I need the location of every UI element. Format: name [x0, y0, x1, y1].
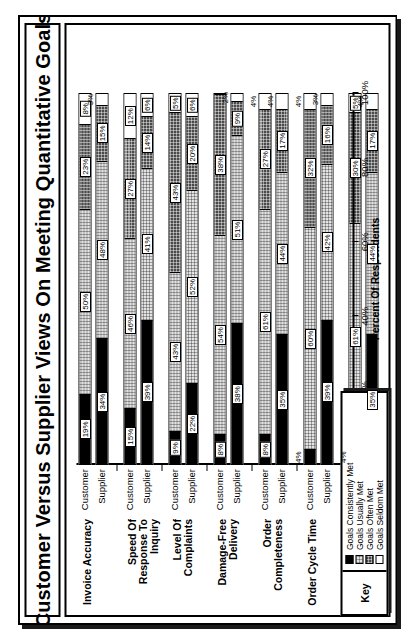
bar-segment: 42% [321, 164, 332, 319]
bar-value-label: 39% [141, 382, 152, 402]
bar-value-label: 44% [366, 244, 377, 264]
bar-segment: 61% [259, 209, 270, 435]
rotated-chart-wrapper: Customer Versus Supplier Views On Meetin… [18, 15, 397, 625]
series-label: Customer [214, 469, 224, 515]
category-label: Order Completeness [261, 519, 283, 611]
bar-segment: 6% [141, 94, 152, 116]
bar-segment: 52% [186, 190, 197, 382]
bar-value-label: 43% [169, 183, 180, 203]
bar-value-label: 4% [293, 96, 302, 108]
stacked-bar: 22%52%20%6% [185, 93, 198, 465]
group-tick [161, 464, 162, 471]
bar-value-label: 35% [366, 390, 377, 410]
bar-value-label: 48% [96, 240, 107, 260]
bar-value-label: 6% [186, 97, 197, 113]
legend-label: Goals Seldom Met [375, 480, 384, 550]
category-label: Damage-Free Delivery [216, 519, 238, 611]
bar-value-label: 8% [259, 442, 270, 458]
bar-segment: 50% [79, 209, 90, 394]
bar-value-label: 32% [304, 158, 315, 178]
stacked-bar: 39%42%16%3% [320, 93, 333, 465]
bar-segment: 9% [169, 431, 180, 464]
bar-segment: 15% [96, 105, 107, 161]
bar-value-label: 16% [321, 125, 332, 145]
stacked-bar: 9%43%43%5% [168, 93, 181, 465]
x-tick [352, 241, 358, 242]
legend-swatch [365, 555, 373, 564]
legend-row: Goals Seldom Met [374, 399, 384, 564]
category-label: Order Cycle Time [306, 519, 317, 611]
group-tick [116, 464, 117, 471]
bar-value-label: 15% [124, 427, 135, 447]
bar-value-label: 60% [304, 329, 315, 349]
bar-value-label: 23% [79, 157, 90, 177]
bar-value-label: 5% [169, 95, 180, 111]
legend-items: Goals Consistently MetGoals Usually MetG… [342, 393, 386, 570]
bar-segment: 38% [231, 323, 242, 464]
bar-segment: 17% [276, 109, 287, 172]
bar-segment: 5% [169, 94, 180, 113]
bar-value-label: 51% [231, 220, 242, 240]
bar-value-label: 44% [276, 244, 287, 264]
stacked-bar: 8%54%38% [213, 93, 226, 465]
bar-segment: 4% [304, 449, 315, 464]
legend-row: Goals Consistently Met [344, 399, 354, 564]
stacked-bar: 15%46%27%12% [123, 93, 136, 465]
bar-value-label: 4% [293, 451, 302, 463]
bar-segment: 43% [169, 112, 180, 271]
category-label: Invoice Accuracy [81, 519, 92, 611]
bar-value-label: 50% [79, 292, 90, 312]
bar-segment: 39% [321, 320, 332, 464]
bar-value-label: 38% [214, 155, 225, 175]
bar-segment: 23% [79, 124, 90, 209]
legend-swatch [345, 555, 353, 564]
stacked-bar: 19%50%23%8% [78, 93, 91, 465]
bar-segment: 32% [304, 109, 315, 227]
bar-segment: 60% [304, 227, 315, 449]
bar-value-label: 20% [186, 144, 197, 164]
bar-value-label: 14% [141, 133, 152, 153]
series-label: Customer [259, 469, 269, 515]
bar-value-label: 52% [186, 277, 197, 297]
bar-segment: 44% [276, 172, 287, 335]
bar-segment: 8% [259, 434, 270, 464]
bar-segment: 3% [321, 94, 332, 105]
bar-value-label: 22% [186, 414, 197, 434]
bar-segment: 22% [186, 383, 197, 464]
bar-segment: 48% [96, 161, 107, 339]
bar-segment: 12% [124, 94, 135, 138]
bar-value-label: 4% [248, 96, 257, 108]
bar-segment: 16% [321, 105, 332, 164]
bar-value-label: 46% [124, 314, 135, 334]
bar-value-label: 41% [141, 234, 152, 254]
chart-title-box: Customer Versus Supplier Views On Meetin… [24, 23, 60, 617]
bar-segment: 4% [276, 94, 287, 109]
series-label: Customer [124, 469, 134, 515]
bar-value-label: 19% [79, 419, 90, 439]
bar-segment: 27% [124, 138, 135, 238]
bar-segment: 39% [141, 320, 152, 464]
bar-value-label: 61% [259, 312, 270, 332]
stacked-bar: 8%61%27%4% [258, 93, 271, 465]
series-label: Supplier [276, 469, 286, 515]
legend-label: Goals Consistently Met [345, 463, 354, 550]
bar-value-label: 17% [366, 131, 377, 151]
bar-segment: 9% [231, 101, 242, 134]
bar-value-label: 9% [169, 440, 180, 456]
legend-swatch [375, 555, 383, 564]
series-label: Supplier [321, 469, 331, 515]
bar-value-label: 34% [96, 392, 107, 412]
bar-value-label: 61% [349, 327, 360, 347]
bar-value-label: 9% [231, 111, 242, 127]
bar-segment: 15% [124, 409, 135, 465]
stacked-bar: 35%44%17%4% [275, 93, 288, 465]
bar-value-label: 6% [141, 97, 152, 113]
legend-swatch [355, 555, 363, 564]
bar-segment: 38% [214, 94, 225, 235]
group-tick [206, 464, 207, 471]
series-label: Supplier [141, 469, 151, 515]
x-tick-label: 40% [358, 307, 369, 326]
series-label: Customer [79, 469, 89, 515]
bar-segment: 34% [96, 338, 107, 464]
series-label: Customer [169, 469, 179, 515]
